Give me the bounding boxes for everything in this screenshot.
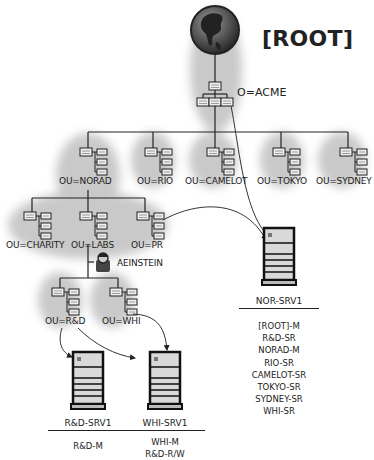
ou-rnd-label: OU=R&D: [45, 316, 85, 326]
server-whi-srv1-icon: [148, 352, 182, 409]
server-rnd-srv1-icon: [71, 352, 105, 409]
server-whi-srv1-name: WHI-SRV1: [125, 418, 205, 431]
replica-item: RIO-SR: [234, 357, 324, 369]
replica-item: SYDNEY-SR: [234, 393, 324, 405]
organization-label: O=ACME: [237, 86, 286, 99]
ou-labs-label: OU=LABS: [71, 240, 114, 250]
replica-item: CAMELOT-SR: [234, 369, 324, 381]
replica-item: [ROOT]-M: [234, 320, 324, 332]
ou-camelot-label: OU=CAMELOT: [185, 176, 247, 186]
ou-pr-label: OU=PR: [131, 240, 163, 250]
server-nor-srv1-icon: [262, 228, 296, 285]
ou-sydney-label: OU=SYDNEY: [316, 176, 371, 186]
replica-item: WHI-SR: [234, 405, 324, 417]
globe-icon: [191, 6, 239, 54]
ou-rio-label: OU=RIO: [137, 176, 173, 186]
ou-tokyo-label: OU=TOKYO: [257, 176, 307, 186]
replica-item: NORAD-M: [234, 344, 324, 356]
replica-item: WHI-M: [120, 436, 210, 448]
arrow-pr-to-nor: [163, 207, 266, 240]
ou-charity-label: OU=CHARITY: [6, 240, 64, 250]
replica-item: R&D-SR: [234, 332, 324, 344]
user-icon: [96, 253, 110, 272]
server-nor-srv1-name: NOR-SRV1: [239, 296, 319, 309]
replica-item: R&D-R/W: [120, 448, 210, 460]
server-nor-srv1-replicas: [ROOT]-M R&D-SR NORAD-M RIO-SR CAMELOT-S…: [234, 320, 324, 418]
user-aeinstein-label: AEINSTEIN: [117, 258, 163, 268]
ou-norad-label: OU=NORAD: [59, 176, 111, 186]
ou-whi-label: OU=WHI: [102, 316, 140, 326]
root-label: [ROOT]: [262, 26, 353, 51]
replica-item: TOKYO-SR: [234, 381, 324, 393]
halo-layer: [8, 8, 366, 328]
server-whi-srv1-replicas: WHI-M R&D-R/W: [120, 436, 210, 460]
arrow-rnd-to-rndsrv: [60, 328, 72, 357]
server-rnd-srv1-name: R&D-SRV1: [48, 418, 128, 431]
